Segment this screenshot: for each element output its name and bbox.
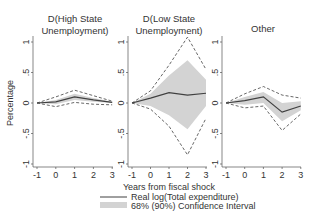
x-tick-label: 2 [280, 170, 285, 180]
y-tick-label: .5 [210, 69, 220, 77]
panel-title-line1: Other [251, 23, 275, 34]
y-tick-label: -.5 [21, 128, 31, 139]
x-tick-label: 0 [242, 170, 247, 180]
y-tick-label: 1 [210, 39, 220, 44]
x-tick-label: -1 [222, 170, 230, 180]
legend-band-swatch [100, 202, 127, 208]
y-tick-label: -.5 [210, 128, 220, 139]
x-tick-label: -1 [33, 170, 41, 180]
panel-title-line1: D(Low State [143, 13, 195, 24]
x-tick-label: 3 [110, 170, 115, 180]
y-tick-label: -1 [116, 160, 126, 168]
y-tick-label: 1 [21, 39, 31, 44]
y-tick-label: .5 [116, 69, 126, 77]
y-tick-label: 0 [210, 100, 220, 105]
y-axis-label: Percentage [5, 80, 15, 126]
x-axis-label: Years from fiscal shock [123, 182, 216, 192]
panel-low-unemployment: D(Low State Unemployment) -1-.50.51-1012… [116, 13, 209, 180]
x-tick-label: 2 [185, 170, 190, 180]
y-tick-label: 0 [116, 100, 126, 105]
y-tick-label: 1 [116, 39, 126, 44]
y-tick-label: -1 [21, 160, 31, 168]
x-tick-label: 2 [91, 170, 96, 180]
y-tick-label: -1 [210, 160, 220, 168]
panel-title-line2: Unemployment) [135, 25, 202, 36]
figure: Percentage D(High State Unemployment) -1… [0, 0, 317, 224]
x-tick-label: 0 [148, 170, 153, 180]
x-tick-label: 1 [166, 170, 171, 180]
y-tick-label: -.5 [116, 128, 126, 139]
panel-other: Other -1-.50.51-10123 [210, 23, 303, 180]
x-tick-label: 0 [53, 170, 58, 180]
legend: Real log(Total expenditure) 68% (90%) Co… [100, 192, 256, 211]
x-tick-label: 1 [72, 170, 77, 180]
x-tick-label: 3 [298, 170, 303, 180]
x-tick-label: 3 [203, 170, 208, 180]
legend-entry-band: 68% (90%) Confidence Interval [131, 201, 256, 211]
panel-high-unemployment: D(High State Unemployment) -1-.50.51-101… [21, 13, 115, 180]
y-tick-label: 0 [21, 100, 31, 105]
y-tick-label: .5 [21, 69, 31, 77]
x-tick-label: -1 [128, 170, 136, 180]
panel-title-line2: Unemployment) [41, 25, 108, 36]
panel-title-line1: D(High State [48, 13, 102, 24]
x-tick-label: 1 [261, 170, 266, 180]
